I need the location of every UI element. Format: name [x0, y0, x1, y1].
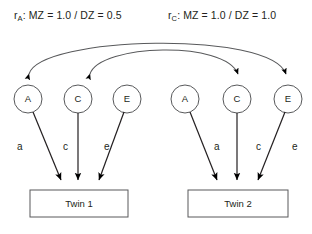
path-label-twin1-c: c	[63, 142, 68, 152]
latent-label-twin2-C: C	[222, 94, 252, 104]
path-arrow-twin1-a	[33, 112, 61, 180]
path-arrow-twin1-e	[99, 112, 124, 180]
correlation-arc-rA	[29, 43, 286, 74]
correlation-label-rA-text: : MZ = 1.0 / DZ = 0.5	[23, 9, 122, 21]
path-label-twin2-a: a	[214, 142, 220, 152]
latent-label-twin1-E: E	[112, 94, 142, 104]
ace-twin-path-diagram: rA: MZ = 1.0 / DZ = 0.5 rC: MZ = 1.0 / D…	[0, 0, 312, 234]
path-label-twin2-c: c	[256, 142, 261, 152]
correlation-arc-rC	[90, 50, 238, 74]
latent-label-twin2-E: E	[273, 94, 303, 104]
path-arrow-twin2-a	[190, 112, 217, 180]
correlation-label-rC-text: : MZ = 1.0 / DZ = 1.0	[177, 9, 276, 21]
correlation-label-rA: rA: MZ = 1.0 / DZ = 0.5	[14, 9, 122, 23]
latent-circle-group	[14, 85, 302, 113]
observed-label-twin2: Twin 2	[188, 199, 288, 209]
path-label-twin1-e: e	[104, 142, 110, 152]
path-arrow-twin2-e	[258, 112, 285, 180]
path-arrow-group-twin1	[33, 112, 124, 180]
path-arrow-group-twin2	[190, 112, 285, 180]
observed-label-twin1: Twin 1	[29, 199, 129, 209]
latent-label-twin1-A: A	[13, 94, 43, 104]
path-label-twin1-a: a	[17, 142, 23, 152]
latent-label-twin2-A: A	[170, 94, 200, 104]
path-label-twin2-e: e	[292, 142, 298, 152]
latent-label-twin1-C: C	[63, 94, 93, 104]
correlation-label-rC: rC: MZ = 1.0 / DZ = 1.0	[168, 9, 276, 23]
correlation-arc-group	[29, 43, 286, 74]
